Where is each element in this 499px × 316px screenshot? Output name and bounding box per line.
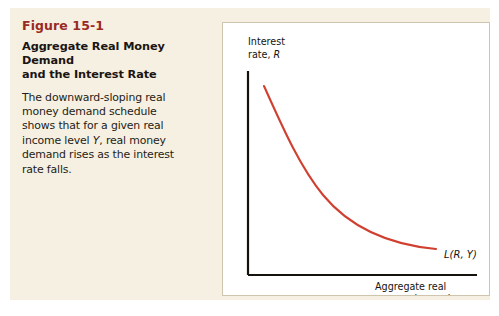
figure-panel: Figure 15-1 Aggregate Real Money Demand … bbox=[10, 8, 490, 300]
chart-panel: Interest rate, R Aggregate real money de… bbox=[222, 22, 490, 296]
y-axis-label-line-1: Interest bbox=[248, 36, 285, 47]
x-axis-label-line-1: Aggregate real bbox=[375, 281, 446, 292]
curve-label-lry: L(R, Y) bbox=[444, 249, 477, 260]
money-demand-curve bbox=[264, 86, 436, 249]
figure-title-line-1: Aggregate Real Money Demand bbox=[22, 40, 194, 68]
y-axis-label-plain: rate, bbox=[248, 49, 274, 60]
figure-body-text: The downward-sloping real money demand s… bbox=[22, 91, 190, 177]
curve-label-italic-r: R bbox=[453, 249, 460, 260]
x-axis-label-line-2: money demand bbox=[375, 293, 450, 295]
curve-label-close: ) bbox=[472, 249, 477, 260]
figure-title-line-2: and the Interest Rate bbox=[22, 68, 194, 82]
y-axis-label-italic-r: R bbox=[274, 49, 281, 60]
y-axis-label-line-2: rate, R bbox=[248, 49, 280, 60]
figure-title: Aggregate Real Money Demand and the Inte… bbox=[22, 40, 194, 83]
figure-number-label: Figure 15-1 bbox=[22, 18, 200, 33]
figure-caption-block: Figure 15-1 Aggregate Real Money Demand … bbox=[22, 18, 200, 177]
money-demand-chart: Interest rate, R Aggregate real money de… bbox=[223, 23, 489, 295]
